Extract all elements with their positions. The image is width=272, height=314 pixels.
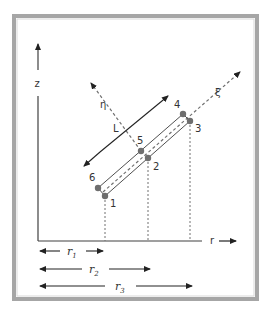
r3-label: r3 (115, 280, 125, 295)
node-2-label: 2 (153, 161, 159, 172)
r2-label: r2 (89, 263, 99, 278)
node-6 (95, 185, 101, 191)
diagram-canvas: z r ξ η L (0, 0, 272, 314)
node-5-label: 5 (137, 135, 143, 146)
xi-label: ξ (215, 87, 221, 98)
dimension-r2: r2 (40, 263, 150, 278)
r1-label: r1 (67, 245, 77, 260)
dimension-r1: r1 (40, 245, 103, 260)
node-1 (102, 193, 108, 199)
eta-axis: η (91, 83, 141, 151)
eta-label: η (100, 99, 106, 110)
z-axis: z (35, 44, 40, 241)
length-dimension: L (84, 96, 168, 166)
node-5 (138, 148, 144, 154)
node-6-label: 6 (89, 172, 95, 183)
node-1-label: 1 (110, 198, 116, 209)
node-3 (187, 118, 193, 124)
length-label: L (113, 123, 119, 134)
node-2 (145, 155, 151, 161)
node-4 (180, 111, 186, 117)
node-3-label: 3 (195, 123, 201, 134)
z-axis-label: z (35, 78, 40, 89)
projection-lines (105, 125, 190, 241)
r-axis-label: r (210, 235, 215, 246)
nodes (95, 111, 193, 199)
frame-border (14, 16, 257, 299)
dimension-r3: r3 (40, 280, 192, 295)
node-4-label: 4 (174, 99, 180, 110)
